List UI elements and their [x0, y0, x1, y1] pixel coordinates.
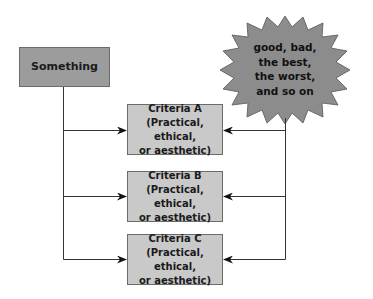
judgment-line: the best, — [240, 55, 330, 70]
judgment-line: the worst, — [240, 69, 330, 84]
something-box: Something — [19, 47, 110, 87]
criteria-a-box: Criteria A (Practical, ethical, or aesth… — [127, 104, 223, 155]
criteria-c-box: Criteria C (Practical, ethical, or aesth… — [127, 234, 223, 285]
criteria-title: Criteria B — [148, 169, 201, 183]
criteria-title: Criteria C — [148, 232, 201, 246]
criteria-detail: or aesthetic) — [139, 274, 211, 288]
criteria-detail: or aesthetic) — [139, 211, 211, 225]
criteria-title: Criteria A — [148, 102, 202, 116]
judgment-line: good, bad, — [240, 40, 330, 55]
judgment-line: and so on — [240, 84, 330, 99]
criteria-detail: or aesthetic) — [139, 144, 211, 158]
criteria-detail: (Practical, ethical, — [128, 246, 222, 274]
criteria-detail: (Practical, ethical, — [128, 183, 222, 211]
something-label: Something — [31, 60, 98, 74]
criteria-b-box: Criteria B (Practical, ethical, or aesth… — [127, 171, 223, 222]
criteria-detail: (Practical, ethical, — [128, 116, 222, 144]
judgments-starburst-text: good, bad, the best, the worst, and so o… — [240, 40, 330, 98]
